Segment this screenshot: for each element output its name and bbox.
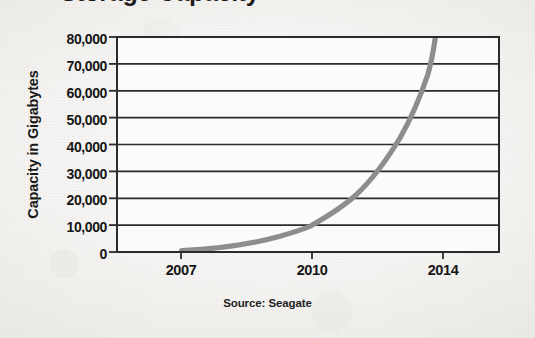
x-axis-ticks	[181, 252, 443, 259]
chart-figure: Storage Capacity Capacity in Gigabytes 8…	[0, 0, 535, 338]
y-axis-ticks	[109, 37, 117, 252]
plot-area	[0, 0, 535, 338]
source-note: Source: Seagate	[0, 297, 535, 309]
